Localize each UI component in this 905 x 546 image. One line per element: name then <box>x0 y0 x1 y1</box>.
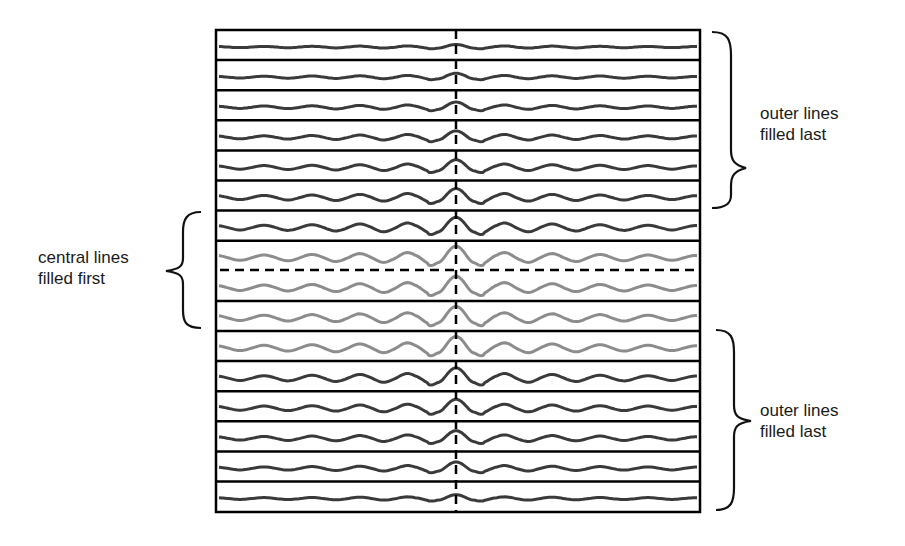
brace-left <box>166 212 201 328</box>
k-space-diagram <box>0 0 905 546</box>
annotation-top-right-line2: filled last <box>760 124 838 145</box>
outer-line-wave <box>219 160 697 173</box>
outer-line-wave <box>219 399 697 414</box>
central-line-wave <box>219 306 697 325</box>
outer-line-wave <box>219 368 697 385</box>
annotation-top-right: outer lines filled last <box>760 103 838 145</box>
annotation-bottom-right: outer lines filled last <box>760 400 838 442</box>
brace-top-right <box>712 32 746 208</box>
outer-line-wave <box>219 189 697 204</box>
outer-line-wave <box>219 102 697 111</box>
outer-line-wave <box>219 431 697 444</box>
annotation-bottom-right-line1: outer lines <box>760 400 838 421</box>
annotation-left-line2: filled first <box>38 268 129 289</box>
outer-line-wave <box>219 462 697 473</box>
central-line-wave <box>219 337 697 356</box>
central-line-wave <box>219 246 697 265</box>
outer-line-wave <box>219 131 697 142</box>
annotation-top-right-line1: outer lines <box>760 103 838 124</box>
outer-line-wave <box>219 217 697 234</box>
central-line-wave <box>219 276 697 295</box>
outer-line-wave <box>219 495 697 501</box>
outer-line-wave <box>219 45 697 49</box>
brace-bottom-right <box>716 330 751 510</box>
outer-line-wave <box>219 73 697 79</box>
signal-waves <box>219 45 697 502</box>
annotation-left-line1: central lines <box>38 247 129 268</box>
annotation-bottom-right-line2: filled last <box>760 421 838 442</box>
annotation-left: central lines filled first <box>38 247 129 289</box>
